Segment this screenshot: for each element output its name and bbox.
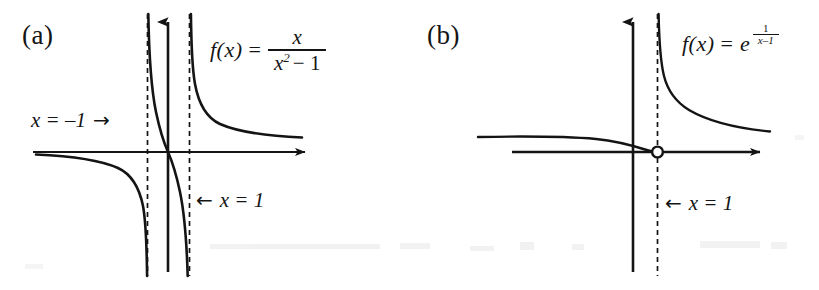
panel-b-exponent-numerator: 1 bbox=[760, 23, 772, 34]
panel-a-fraction: x x2− 1 bbox=[268, 26, 326, 74]
arrow-right-icon: → bbox=[93, 110, 110, 130]
panel-b-fx-text: f(x) bbox=[682, 33, 715, 55]
panel-a-denominator-base: x bbox=[274, 51, 283, 75]
panel-a-numerator: x bbox=[285, 26, 310, 49]
panel-a-function-label: f(x) = x x2− 1 bbox=[210, 26, 326, 74]
panel-a-asymptote-right-annotation: ← x = 1 bbox=[196, 190, 264, 211]
panel-b-exponential-base: e bbox=[740, 33, 750, 55]
panel-b-equals-sign: = bbox=[721, 33, 733, 55]
panel-a-curve-left-branch bbox=[36, 155, 147, 277]
panel-a-denominator-exponent: 2 bbox=[283, 50, 290, 65]
panel-a-tag: (a) bbox=[22, 22, 53, 49]
panel-b-asymptote-right-text: x = 1 bbox=[689, 193, 734, 214]
panel-b-open-circle-marker bbox=[652, 147, 663, 158]
panel-a-fx-text: f(x) bbox=[210, 39, 243, 61]
panel-a-denominator: x2− 1 bbox=[268, 51, 326, 74]
arrow-left-icon: ← bbox=[196, 190, 213, 210]
panel-b-exponent-denominator: x–1 bbox=[756, 35, 776, 46]
panel-a-denominator-rest: − 1 bbox=[293, 51, 321, 75]
panel-b-curve-left-branch bbox=[478, 137, 656, 153]
panel-b-asymptote-right-annotation: ← x = 1 bbox=[665, 193, 733, 214]
arrow-left-icon: ← bbox=[665, 193, 682, 213]
panel-b-tag: (b) bbox=[427, 22, 460, 49]
figure-root: (a) f(x) = x x2− 1 x = –1 → ← x = 1 (b) … bbox=[0, 0, 819, 290]
panel-a-asymptote-left-annotation: x = –1 → bbox=[31, 110, 110, 131]
panel-b-function-label: f(x) = e 1 x–1 bbox=[682, 32, 779, 55]
panel-a-asymptote-right-text: x = 1 bbox=[220, 190, 265, 211]
panel-a-asymptote-left-text: x = –1 bbox=[31, 110, 86, 131]
panel-b-exponent-fraction: 1 x–1 bbox=[753, 23, 779, 46]
panel-a-equals-sign: = bbox=[249, 39, 261, 61]
